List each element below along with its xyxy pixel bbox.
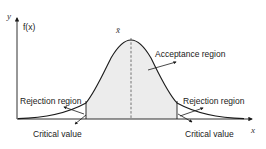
critical-value-right-label: Critical value <box>185 129 234 139</box>
critical-left-arrow <box>75 115 86 124</box>
mean-label: x̄ <box>115 25 121 35</box>
function-label: f(x) <box>23 22 35 32</box>
rejection-region-right-label: Rejection region <box>183 96 245 106</box>
normal-distribution-diagram: y f(x) x̄ Acceptance region Rejection re… <box>0 0 266 149</box>
y-axis-label: y <box>6 11 11 21</box>
critical-value-left-label: Critical value <box>33 129 82 139</box>
acceptance-region-label: Acceptance region <box>155 49 226 59</box>
rejection-region-left-label: Rejection region <box>20 96 82 106</box>
critical-right-arrow <box>178 114 192 122</box>
x-axis-label: x <box>250 125 255 135</box>
